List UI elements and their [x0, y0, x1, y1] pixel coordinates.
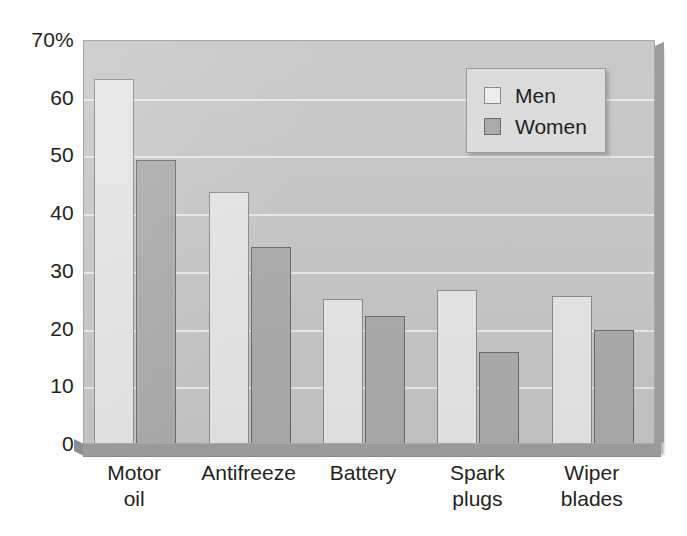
legend-item-women: Women: [484, 114, 587, 138]
x-axis-label: Wiper blades: [561, 460, 623, 512]
legend-item-men: Men: [484, 83, 556, 107]
plot-right-face: [655, 42, 664, 446]
bar-men: [94, 79, 134, 443]
bar-men: [437, 290, 477, 443]
x-axis-label: Spark plugs: [450, 460, 505, 512]
y-tick-label: 60: [0, 86, 74, 110]
bar-women: [136, 160, 176, 443]
bar-women: [479, 352, 519, 443]
y-tick-label: 10: [0, 374, 74, 398]
legend-swatch-men-icon: [484, 87, 501, 104]
bar-men: [209, 192, 249, 443]
bar-chart: 70%6050403020100 Men Women Motor oilAnti…: [0, 0, 687, 536]
bar-men: [552, 296, 592, 443]
y-tick-label: 0: [0, 432, 74, 456]
x-axis-label: Battery: [330, 460, 397, 486]
y-tick-label: 70%: [0, 28, 74, 52]
y-tick-label: 50: [0, 143, 74, 167]
bar-men: [323, 299, 363, 443]
plot-base: [83, 444, 661, 457]
y-tick-label: 40: [0, 201, 74, 225]
y-axis: 70%6050403020100: [0, 0, 74, 536]
legend-label-men: Men: [515, 85, 556, 106]
bar-women: [251, 247, 291, 443]
y-tick-label: 20: [0, 317, 74, 341]
y-tick-label: 30: [0, 259, 74, 283]
legend-label-women: Women: [515, 116, 587, 137]
x-axis: Motor oilAntifreezeBatterySpark plugsWip…: [83, 460, 655, 530]
legend: Men Women: [466, 68, 606, 153]
legend-swatch-women-icon: [484, 118, 501, 135]
x-axis-label: Motor oil: [107, 460, 161, 512]
bar-women: [594, 330, 634, 443]
x-axis-label: Antifreeze: [201, 460, 296, 486]
bar-women: [365, 316, 405, 443]
